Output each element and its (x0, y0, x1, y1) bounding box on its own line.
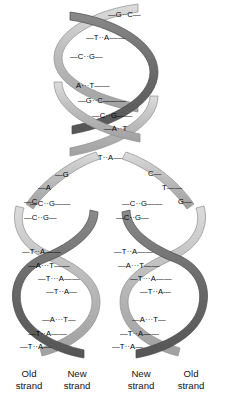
right-bp-9: —T··A— (112, 342, 143, 351)
right-bp-3: —T··A—— (114, 247, 153, 256)
right-daughter-base-pairs: —C··G—— —C··G— —T··A—— —A···T—— —T···A——… (112, 199, 172, 351)
right-bp-4: —A···T—— (118, 261, 160, 270)
left-bp-2: —C··G— (24, 213, 57, 222)
base-pair-2: —T··A—— (86, 33, 125, 42)
left-bp-3: —T··A—— (22, 247, 61, 256)
base-pair-5: —G··C——— (78, 96, 127, 105)
caption-line1: Old (6, 368, 52, 380)
caption-line2: strand (6, 380, 52, 392)
base-pair-6: —C··G—— (92, 111, 133, 120)
left-bp-7: —A···T— (42, 315, 76, 324)
right-template-base-3: G— (178, 197, 192, 206)
caption-new-strand-right: New strand (116, 368, 166, 391)
right-bp-1: —C··G—— (122, 199, 163, 208)
dna-diagram-svg: —G··C— —T··A—— —C··G— A···T—— —G··C——— —… (0, 0, 227, 407)
caption-line2: strand (52, 380, 102, 392)
right-bp-2: —C··G— (116, 213, 149, 222)
right-bp-7: —A···T— (132, 315, 166, 324)
left-template-base-2: —A (38, 183, 52, 192)
base-pair-3: —C··G— (70, 52, 103, 61)
base-pair-7: —A··T (104, 124, 128, 133)
caption-line2: strand (166, 380, 216, 392)
left-bp-8: —T··A—— (28, 329, 67, 338)
right-bp-8: —T··A—— (120, 329, 159, 338)
left-bp-4: —A···T—— (28, 261, 70, 270)
left-daughter-base-pairs: —C··G—— —C··G— —T··A—— —A···T—— —T···A——… (20, 199, 80, 351)
left-template-base-1: —G (55, 170, 69, 179)
right-bp-6: —T··A— (140, 287, 171, 296)
caption-old-strand-left: Old strand (6, 368, 52, 391)
caption-line1: New (52, 368, 102, 380)
right-template-base-1: C— (148, 169, 162, 178)
caption-line1: Old (166, 368, 216, 380)
caption-line1: New (116, 368, 166, 380)
parent-duplex-ribbons (54, 4, 158, 156)
caption-old-strand-right: Old strand (166, 368, 216, 391)
dna-replication-figure: —G··C— —T··A—— —C··G— A···T—— —G··C——— —… (0, 0, 227, 407)
left-bp-9: —T··A— (20, 342, 51, 351)
right-bp-5: —T···A—— (130, 274, 172, 283)
left-bp-5: —T···A—— (38, 274, 80, 283)
base-pair-4: A···T—— (76, 81, 110, 90)
caption-line2: strand (116, 380, 166, 392)
right-template-base-2: T—— (162, 183, 183, 192)
base-pair-1: —G··C— (108, 10, 141, 19)
left-bp-1: —C··G—— (30, 199, 71, 208)
caption-new-strand-left: New strand (52, 368, 102, 391)
left-bp-6: —T··A— (46, 287, 77, 296)
